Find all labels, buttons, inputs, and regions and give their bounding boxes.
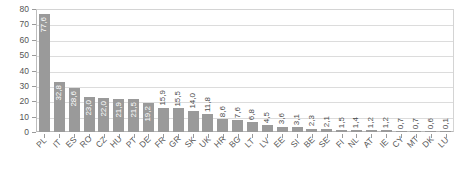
bar-value-label: 1,2 <box>382 117 390 128</box>
bar[interactable]: 6,8 <box>247 122 258 132</box>
y-axis-tick-mark <box>32 71 36 72</box>
y-axis-tick-label: 20 <box>20 97 29 106</box>
bar-slot: 14,0 <box>186 10 201 132</box>
bar[interactable]: 11,8 <box>202 114 213 132</box>
bar-value-label: 15,9 <box>159 90 167 106</box>
bar-slot: 11,8 <box>200 10 215 132</box>
bar-slot: 0,7 <box>394 10 409 132</box>
bar[interactable]: 1,2 <box>381 130 392 132</box>
x-axis-tick-label: SK <box>183 135 197 149</box>
y-axis-tick-mark <box>32 40 36 41</box>
x-axis-tick-label: RO <box>78 134 93 149</box>
bar-slot: 32,8 <box>52 10 67 132</box>
x-axis-slot: LU <box>438 137 453 171</box>
bar-value-label: 23,0 <box>85 100 93 116</box>
bar[interactable]: 8,6 <box>217 119 228 132</box>
x-axis-tick-label: IE <box>378 138 390 150</box>
bar-slot: 3,1 <box>290 10 305 132</box>
y-axis-tick-label: 10 <box>20 112 29 121</box>
bar-value-label: 32,8 <box>55 85 63 101</box>
bar[interactable]: 77,6 <box>39 14 50 132</box>
bar[interactable]: 21,5 <box>128 99 139 132</box>
bar[interactable]: 23,0 <box>84 97 95 132</box>
bar-slot: 21,9 <box>111 10 126 132</box>
bar[interactable]: 0,7 <box>410 131 421 132</box>
bar-value-label: 15,5 <box>174 91 182 107</box>
y-axis-tick-mark <box>32 55 36 56</box>
bar[interactable]: 1,4 <box>351 130 362 132</box>
bar-value-label: 2,3 <box>308 115 316 126</box>
y-axis-tick-label: 70 <box>20 20 29 29</box>
x-axis-tick-mark <box>342 134 343 138</box>
bar-value-label: 22,0 <box>100 101 108 117</box>
bar[interactable]: 19,2 <box>143 103 154 132</box>
bar-value-label: 4,5 <box>263 112 271 123</box>
bar-slot: 0,6 <box>423 10 438 132</box>
bar-slot: 1,4 <box>349 10 364 132</box>
y-axis-tick-mark <box>32 9 36 10</box>
bar[interactable]: 15,5 <box>173 108 184 132</box>
bar-slot: 6,8 <box>245 10 260 132</box>
bar[interactable]: 2,3 <box>306 129 317 133</box>
x-axis-tick-label: PT <box>124 136 138 150</box>
x-axis-tick-label: EE <box>272 135 286 149</box>
x-axis-tick-mark <box>252 134 253 138</box>
bar-slot: 7,6 <box>230 10 245 132</box>
bar-slot: 8,6 <box>215 10 230 132</box>
bar[interactable]: 0,6 <box>425 131 436 132</box>
y-axis-tick-label: 40 <box>20 66 29 75</box>
bar[interactable]: 0,1 <box>440 131 451 132</box>
y-axis-tick-label: 80 <box>20 5 29 14</box>
bar-value-label: 21,5 <box>130 102 138 118</box>
bar-value-label: 3,6 <box>278 113 286 124</box>
bar[interactable]: 2,1 <box>321 129 332 132</box>
bar-value-label: 3,1 <box>293 114 301 125</box>
bar-value-label: 11,8 <box>204 97 212 112</box>
bar-value-label: 0,7 <box>412 118 420 129</box>
x-axis-tick-label: LT <box>244 137 257 150</box>
bar[interactable]: 15,9 <box>158 108 169 132</box>
bar-slot: 2,1 <box>319 10 334 132</box>
bar-value-label: 14,0 <box>189 93 197 109</box>
bar-slot: 1,2 <box>379 10 394 132</box>
x-axis-tick-label: MT <box>406 135 421 150</box>
bar[interactable]: 3,6 <box>277 127 288 132</box>
bar-slot: 15,9 <box>156 10 171 132</box>
x-axis-tick-label: BE <box>302 135 316 149</box>
x-axis-tick-label: GR <box>168 134 183 149</box>
x-axis-tick-label: ES <box>64 135 78 149</box>
x-axis-tick-label: SE <box>317 135 331 149</box>
bar-value-label: 1,2 <box>367 117 375 128</box>
y-axis-tick-mark <box>32 101 36 102</box>
bar[interactable]: 3,1 <box>292 127 303 132</box>
bar[interactable]: 7,6 <box>232 120 243 132</box>
bar-value-label: 6,8 <box>248 109 256 120</box>
bar[interactable]: 1,5 <box>336 130 347 132</box>
bar[interactable]: 32,8 <box>54 82 65 132</box>
bar[interactable]: 1,2 <box>366 130 377 132</box>
bar[interactable]: 14,0 <box>188 111 199 132</box>
y-axis-tick-mark <box>32 86 36 87</box>
bar-value-label: 28,6 <box>70 91 78 107</box>
bar-value-label: 1,4 <box>352 117 360 128</box>
x-axis-tick-label: SI <box>289 138 301 150</box>
bar[interactable]: 28,6 <box>69 88 80 132</box>
x-axis-slot: SE <box>319 137 334 171</box>
bar[interactable]: 4,5 <box>262 125 273 132</box>
bar-slot: 28,6 <box>67 10 82 132</box>
x-axis-tick-label: AT <box>362 136 375 149</box>
bar-value-label: 21,9 <box>115 102 123 118</box>
x-axis-tick-label: IT <box>52 138 63 149</box>
y-axis-tick-label: 30 <box>20 82 29 91</box>
bar[interactable]: 21,9 <box>113 99 124 132</box>
bar-slot: 1,5 <box>334 10 349 132</box>
bar-slot: 1,2 <box>364 10 379 132</box>
bar-value-label: 7,6 <box>234 107 242 118</box>
bar-slot: 4,5 <box>260 10 275 132</box>
y-axis-tick-label: 50 <box>20 51 29 60</box>
x-axis-tick-mark <box>59 134 60 138</box>
bar[interactable]: 0,7 <box>396 131 407 132</box>
bar[interactable]: 22,0 <box>98 98 109 132</box>
bar-slot: 0,7 <box>408 10 423 132</box>
y-axis-tick-mark <box>32 24 36 25</box>
